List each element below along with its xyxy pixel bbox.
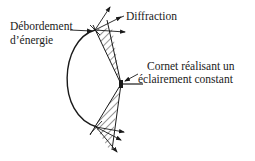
parabolic-reflector: [67, 30, 97, 127]
antenna-diagram: Débordement d’énergie Diffraction Cornet…: [0, 0, 255, 161]
horn-label-line1: Cornet réalisant un: [147, 60, 235, 72]
diffraction-label: Diffraction: [126, 10, 177, 22]
horn-label-line2: éclairement constant: [138, 73, 233, 85]
diffraction-pointer-line: [117, 16, 124, 19]
spillover-pointer-arrow: [70, 30, 92, 31]
upper-beam-cone: [93, 20, 121, 84]
horn-pointer-arrow: [125, 74, 138, 81]
spillover-label-line2: d’énergie: [10, 34, 53, 46]
spillover-label-line1: Débordement: [10, 20, 73, 32]
lower-beam-cone: [90, 84, 121, 151]
